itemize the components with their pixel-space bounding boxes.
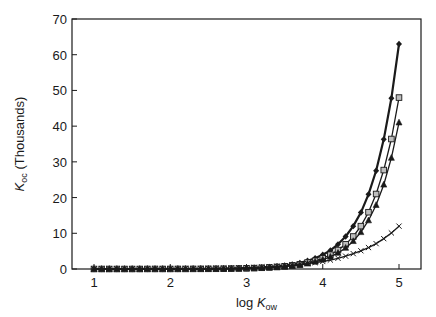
series-triangle bbox=[91, 119, 402, 271]
y-axis-ticks: 010203040506070 bbox=[53, 12, 77, 277]
plot-frame bbox=[72, 19, 421, 269]
triangle-marker bbox=[388, 155, 394, 161]
square-marker bbox=[366, 209, 372, 215]
cross-marker bbox=[396, 224, 401, 229]
square-marker bbox=[373, 191, 379, 197]
square-marker bbox=[381, 167, 387, 173]
y-tick-label: 70 bbox=[53, 12, 67, 27]
diamond-marker bbox=[396, 41, 402, 47]
triangle-marker bbox=[373, 202, 379, 208]
y-axis-label: Koc (Thousands) bbox=[12, 97, 29, 192]
cross-marker bbox=[381, 236, 386, 241]
square-marker bbox=[396, 95, 402, 101]
triangle-marker bbox=[381, 181, 387, 187]
x-tick-label: 3 bbox=[243, 275, 250, 290]
x-tick-label: 5 bbox=[395, 275, 402, 290]
triangle-marker bbox=[396, 119, 402, 125]
triangle-marker bbox=[366, 217, 372, 223]
series-cross-line bbox=[94, 226, 399, 269]
x-tick-label: 2 bbox=[167, 275, 174, 290]
y-tick-label: 50 bbox=[53, 83, 67, 98]
y-tick-label: 0 bbox=[60, 262, 67, 277]
data-series bbox=[91, 41, 402, 272]
y-tick-label: 40 bbox=[53, 119, 67, 134]
cross-marker bbox=[389, 230, 394, 235]
cross-marker bbox=[366, 245, 371, 250]
cross-marker bbox=[374, 241, 379, 246]
series-triangle-line bbox=[94, 123, 399, 269]
y-tick-label: 10 bbox=[53, 226, 67, 241]
x-axis-label: log Kow bbox=[236, 295, 278, 312]
diamond-marker bbox=[381, 136, 387, 142]
diamond-marker bbox=[388, 95, 394, 101]
x-tick-label: 4 bbox=[319, 275, 326, 290]
y-tick-label: 20 bbox=[53, 191, 67, 206]
x-tick-label: 1 bbox=[90, 275, 97, 290]
y-tick-label: 60 bbox=[53, 48, 67, 63]
square-marker bbox=[389, 136, 395, 142]
koc-vs-logkow-chart: 010203040506070 12345 log Kow Koc (Thous… bbox=[0, 0, 436, 317]
series-square bbox=[91, 95, 402, 272]
y-tick-label: 30 bbox=[53, 155, 67, 170]
diamond-marker bbox=[373, 168, 379, 174]
